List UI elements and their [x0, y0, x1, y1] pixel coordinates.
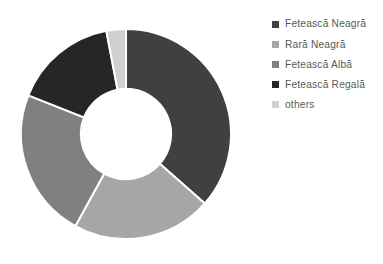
- legend-item[interactable]: Fetească Regală: [272, 75, 382, 95]
- legend-item[interactable]: Fetească Albă: [272, 54, 382, 74]
- doughnut-chart-svg: [12, 18, 240, 250]
- legend-item-label: others: [285, 99, 315, 110]
- square-marker-icon: [272, 101, 279, 108]
- legend-item[interactable]: Fetească Neagră: [272, 14, 382, 34]
- legend-item-label: Fetească Neagră: [285, 18, 366, 29]
- doughnut-chart-plot-area: [12, 18, 240, 250]
- legend-item[interactable]: Rară Neagră: [272, 34, 382, 54]
- square-marker-icon: [272, 41, 279, 48]
- square-marker-icon: [272, 81, 279, 88]
- square-marker-icon: [272, 61, 279, 68]
- square-marker-icon: [272, 21, 279, 28]
- legend-item-label: Fetească Albă: [285, 59, 352, 70]
- legend-item-label: Fetească Regală: [285, 79, 365, 90]
- chart-legend: Fetească Neagră Rară Neagră Fetească Alb…: [272, 14, 382, 115]
- doughnut-chart-figure: Fetească Neagră Rară Neagră Fetească Alb…: [0, 0, 383, 264]
- legend-item-label: Rară Neagră: [285, 39, 346, 50]
- legend-item[interactable]: others: [272, 95, 382, 115]
- doughnut-slice-group: [21, 29, 231, 239]
